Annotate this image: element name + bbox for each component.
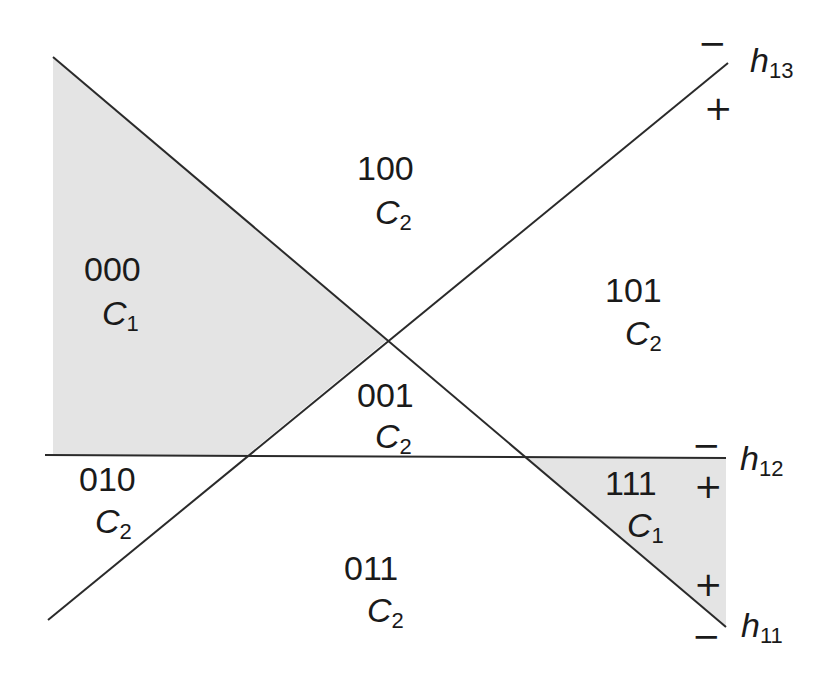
region-code-100: 100: [357, 149, 414, 187]
h11-minus-sign: −: [692, 616, 721, 656]
h12-minus-sign: −: [692, 425, 721, 465]
hyperplane-h13-label: h13: [750, 41, 793, 83]
hyperplane-h12-label: h12: [740, 439, 783, 481]
hyperplane-h11-label: h11: [741, 606, 783, 648]
h13-plus-sign: +: [704, 88, 733, 128]
region-code-010: 010: [79, 460, 136, 498]
region-code-101: 101: [605, 271, 662, 309]
region-class-011: C2: [367, 591, 404, 633]
region-class-001: C2: [375, 417, 412, 459]
region-class-101: C2: [625, 314, 662, 356]
h13-minus-sign: −: [698, 23, 727, 63]
h11-plus-sign: +: [694, 564, 723, 604]
h12-plus-sign: +: [694, 466, 723, 506]
region-code-001: 001: [357, 376, 414, 414]
region-code-111: 111: [605, 464, 657, 502]
hyperplane-h12-line: [45, 455, 726, 458]
region-code-000: 000: [84, 250, 141, 288]
region-class-010: C2: [95, 502, 132, 544]
hyperplane-partition-diagram: 000 C1 100 C2 101 C2 001 C2 010 C2 011 C…: [0, 0, 838, 676]
region-code-011: 011: [344, 549, 398, 587]
region-class-100: C2: [375, 193, 412, 235]
